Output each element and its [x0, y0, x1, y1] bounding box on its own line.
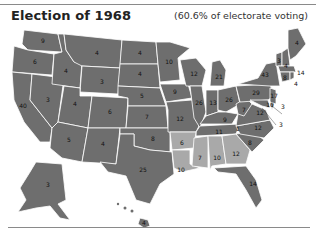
label-az: 5: [67, 136, 71, 143]
label-ok: 8: [151, 135, 155, 142]
states: [12, 28, 306, 228]
label-mi: 21: [215, 73, 223, 80]
label-ct: 8: [283, 74, 287, 81]
label-ia: 9: [173, 88, 177, 95]
label-or: 6: [33, 58, 37, 65]
label-nc-split: 1: [236, 125, 240, 132]
label-tx: 25: [139, 166, 147, 173]
label-wa: 9: [41, 37, 45, 44]
state-fl: [214, 166, 262, 208]
label-ri: 4: [294, 80, 298, 87]
label-ut: 4: [73, 100, 77, 107]
state-ri: [290, 72, 294, 80]
label-tn: 11: [215, 128, 223, 135]
label-ms: 7: [198, 154, 202, 161]
label-al: 10: [213, 154, 221, 161]
bottom-rule: [8, 227, 310, 228]
label-wv: 7: [242, 106, 246, 113]
label-nd: 4: [138, 49, 142, 56]
label-de: 3: [281, 103, 285, 110]
label-mo: 12: [176, 115, 184, 122]
label-il: 26: [195, 99, 203, 106]
label-fl: 14: [249, 180, 257, 187]
label-nj: 17: [270, 92, 278, 99]
hi-island: [117, 203, 119, 205]
label-va: 12: [256, 109, 264, 116]
label-md: 10: [266, 101, 274, 108]
state-ak: [18, 162, 70, 220]
label-ne: 5: [140, 92, 144, 99]
hi-island: [131, 210, 134, 213]
label-ar: 6: [180, 139, 184, 146]
label-co: 6: [108, 108, 112, 115]
label-ak: 3: [46, 181, 50, 188]
label-nv: 3: [46, 96, 50, 103]
hi-island: [124, 207, 127, 210]
label-pa: 29: [252, 89, 260, 96]
label-wy: 3: [100, 78, 104, 85]
label-wi: 12: [190, 70, 198, 77]
label-id: 4: [64, 67, 68, 74]
label-ky: 9: [223, 116, 227, 123]
label-vt: 3: [277, 57, 281, 64]
label-ca: 40: [19, 102, 27, 109]
label-nc: 12: [254, 124, 262, 131]
state-ms: [192, 136, 208, 168]
state-ny: [238, 62, 280, 86]
label-ks: 7: [145, 113, 149, 120]
label-me: 4: [295, 39, 299, 46]
label-mn: 10: [165, 58, 173, 65]
label-oh: 26: [225, 96, 233, 103]
label-mt: 4: [95, 49, 99, 56]
label-nh: 4: [284, 62, 288, 69]
label-ma: 14: [297, 69, 305, 76]
label-sd: 4: [138, 70, 142, 77]
label-ga: 12: [232, 150, 240, 157]
label-in: 13: [209, 99, 217, 106]
label-nm: 4: [101, 140, 105, 147]
label-dc: 3: [279, 121, 283, 128]
label-la: 10: [177, 166, 185, 173]
us-election-map: 9 6 40 3 4 4 3 4 5 6 4 4 4 5 7 8 25 10 9…: [0, 0, 316, 235]
label-sc: 8: [248, 139, 252, 146]
label-hi: 4: [142, 219, 146, 226]
label-ny: 43: [261, 71, 269, 78]
